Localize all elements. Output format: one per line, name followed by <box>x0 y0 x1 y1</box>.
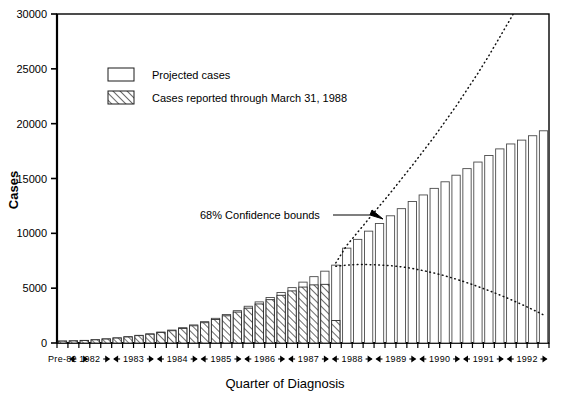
bar-projected <box>485 155 493 343</box>
bar-projected <box>528 136 536 343</box>
x-group-label: 1989 <box>385 354 406 364</box>
bar-reported <box>146 334 154 343</box>
bar-projected <box>408 202 416 343</box>
y-tick-label: 10000 <box>16 227 47 239</box>
x-group-label: 1982 <box>79 354 100 364</box>
annotation-label: 68% Confidence bounds <box>200 209 320 221</box>
x-group-label: 1984 <box>167 354 188 364</box>
x-group-label: 1983 <box>123 354 144 364</box>
chart-canvas: 050001000015000200002500030000 Pre-82198… <box>0 0 571 396</box>
bar-reported <box>91 340 99 343</box>
bar-reported <box>200 323 208 343</box>
bar-projected <box>463 169 471 343</box>
legend-swatch-projected <box>108 68 134 81</box>
bar-reported <box>222 316 230 343</box>
y-tick-label: 20000 <box>16 118 47 130</box>
x-group-label: 1988 <box>342 354 363 364</box>
y-tick-label: 0 <box>41 337 47 349</box>
bar-projected <box>364 231 372 343</box>
bar-projected <box>539 131 547 343</box>
bar-projected <box>354 239 362 343</box>
x-group-label: 1986 <box>254 354 275 364</box>
chart-figure: 050001000015000200002500030000 Pre-82198… <box>0 0 571 396</box>
bar-reported <box>266 300 274 343</box>
legend-label: Cases reported through March 31, 1988 <box>152 92 347 104</box>
y-tick-label: 5000 <box>23 282 47 294</box>
y-axis-title: Cases <box>6 171 21 209</box>
bar-projected <box>375 223 383 343</box>
x-axis-title: Quarter of Diagnosis <box>225 376 345 391</box>
x-group-label: 1990 <box>429 354 450 364</box>
bar-reported <box>233 312 241 343</box>
bar-reported <box>211 319 219 343</box>
bar-projected <box>343 248 351 343</box>
x-axis-group-labels: Pre-821982198319841985198619871988198919… <box>48 354 547 364</box>
bar-projected <box>452 175 460 343</box>
bar-reported <box>321 284 329 343</box>
bar-reported <box>255 304 263 343</box>
bar-reported <box>179 328 187 343</box>
legend-swatch-reported <box>108 91 134 104</box>
bar-projected <box>386 216 394 343</box>
bar-reported <box>102 339 110 343</box>
bar-reported <box>244 308 252 343</box>
bar-reported <box>288 291 296 343</box>
bar-reported <box>168 331 176 343</box>
x-group-label: 1985 <box>210 354 231 364</box>
bar-reported <box>332 321 340 343</box>
bar-projected <box>496 149 504 343</box>
bar-reported <box>80 340 88 343</box>
bar-reported <box>113 338 121 343</box>
bar-reported <box>157 333 165 343</box>
bar-reported <box>299 287 307 343</box>
bar-projected <box>507 144 515 343</box>
bar-reported <box>190 326 198 343</box>
bar-projected <box>441 182 449 343</box>
bar-reported <box>69 341 77 343</box>
x-group-label: 1992 <box>517 354 538 364</box>
bar-projected <box>518 140 526 343</box>
bar-projected <box>419 195 427 343</box>
x-group-label: 1991 <box>473 354 494 364</box>
bar-reported <box>124 337 132 343</box>
x-group-label: 1987 <box>298 354 319 364</box>
bar-reported <box>277 295 285 343</box>
y-tick-label: 30000 <box>16 8 47 20</box>
bar-reported <box>58 341 66 343</box>
bar-projected <box>474 162 482 343</box>
bar-reported <box>135 336 143 343</box>
bar-reported <box>310 285 318 343</box>
bar-projected <box>397 209 405 343</box>
bar-projected <box>430 188 438 343</box>
y-tick-label: 25000 <box>16 63 47 75</box>
legend-label: Projected cases <box>152 69 231 81</box>
